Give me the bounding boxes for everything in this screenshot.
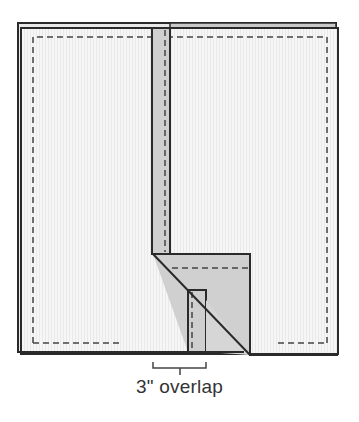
binding-overlap-diagram bbox=[0, 0, 359, 422]
vertical-strip bbox=[152, 28, 170, 254]
overlap-label: 3" overlap bbox=[0, 376, 359, 398]
overlap-bracket bbox=[153, 362, 206, 375]
